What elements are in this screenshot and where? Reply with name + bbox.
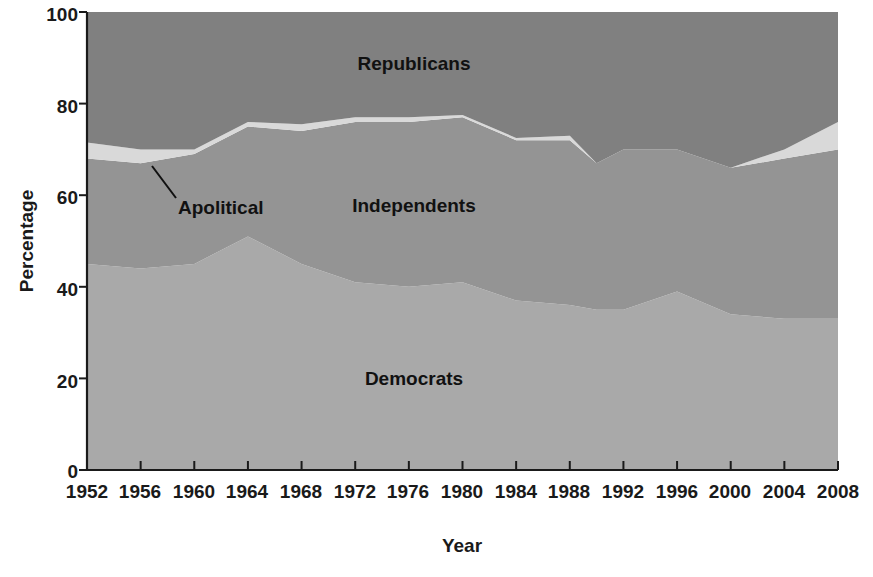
y-tick-label-80: 80: [57, 96, 78, 117]
x-tick-label-1992: 1992: [602, 481, 644, 502]
x-tick-label-1980: 1980: [441, 481, 483, 502]
annotation-label-apolitical: Apolitical: [178, 197, 264, 218]
area-series-group: [87, 12, 838, 470]
x-axis-title: Year: [442, 535, 483, 556]
x-tick-label-1956: 1956: [119, 481, 161, 502]
x-tick-label-2000: 2000: [709, 481, 751, 502]
y-tick-label-60: 60: [57, 187, 78, 208]
x-tick-label-1984: 1984: [495, 481, 538, 502]
x-tick-label-1976: 1976: [387, 481, 429, 502]
y-tick-label-100: 100: [46, 4, 78, 25]
x-tick-label-1972: 1972: [334, 481, 376, 502]
x-tick-label-1968: 1968: [280, 481, 322, 502]
y-tick-label-40: 40: [57, 279, 78, 300]
x-tick-label-2004: 2004: [763, 481, 806, 502]
y-tick-label-0: 0: [67, 461, 78, 482]
chart-figure: 100 80 60 40 20 0 1952 1956 1960 1964 19…: [0, 0, 873, 577]
series-label-independents: Independents: [352, 195, 476, 216]
x-tick-label-1952: 1952: [66, 481, 108, 502]
y-tick-label-20: 20: [57, 371, 78, 392]
x-tick-label-1988: 1988: [548, 481, 590, 502]
series-label-democrats: Democrats: [365, 368, 463, 389]
x-tick-label-1964: 1964: [226, 481, 269, 502]
x-tick-label-1996: 1996: [656, 481, 698, 502]
x-tick-label-1960: 1960: [173, 481, 215, 502]
y-axis-title: Percentage: [16, 190, 37, 292]
series-label-republicans: Republicans: [358, 53, 471, 74]
x-tick-label-2008: 2008: [817, 481, 859, 502]
y-tick-marks: [79, 12, 87, 470]
stacked-area-chart: 100 80 60 40 20 0 1952 1956 1960 1964 19…: [0, 0, 873, 577]
